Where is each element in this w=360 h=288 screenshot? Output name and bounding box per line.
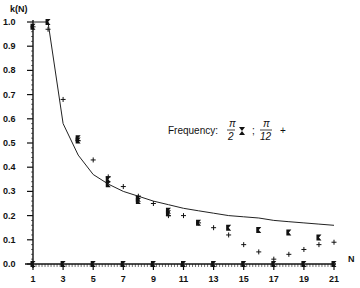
x-tick-label: 3 xyxy=(61,274,66,284)
x-tick-label: 7 xyxy=(121,274,126,284)
legend-separator: ; xyxy=(252,125,255,136)
y-tick-label: 0.7 xyxy=(3,90,16,100)
hourglass-marker-icon xyxy=(239,127,245,135)
y-axis: 0.00.10.20.30.40.50.60.70.80.91.0 xyxy=(3,17,33,269)
legend-2-num: π xyxy=(263,118,270,129)
legend: Frequency: π 2 ; π 12 + xyxy=(168,118,286,142)
data-points xyxy=(31,19,337,267)
x-tick-label: 19 xyxy=(299,274,309,284)
y-tick-label: 0.4 xyxy=(3,162,16,172)
x-tick-label: 13 xyxy=(209,274,219,284)
y-tick-label: 0.3 xyxy=(3,186,16,196)
y-tick-label: 0.0 xyxy=(3,259,16,269)
legend-1-den: 2 xyxy=(227,131,234,142)
legend-1-num: π xyxy=(229,118,236,129)
x-tick-label: 21 xyxy=(329,274,339,284)
chart: k(N) 0.00.10.20.30.40.50.60.70.80.91.0 1… xyxy=(0,0,360,288)
x-tick-label: 17 xyxy=(269,274,279,284)
y-tick-label: 0.8 xyxy=(3,65,16,75)
legend-2-den: 12 xyxy=(260,131,272,142)
x-tick-label: 1 xyxy=(30,274,35,284)
x-axis-title: N xyxy=(348,254,355,264)
y-axis-title: k(N) xyxy=(10,4,28,14)
y-tick-label: 0.6 xyxy=(3,114,16,124)
y-tick-label: 0.1 xyxy=(3,235,16,245)
y-tick-label: 0.9 xyxy=(3,41,16,51)
fit-curve xyxy=(33,22,334,225)
legend-prefix: Frequency: xyxy=(168,125,218,136)
x-tick-label: 9 xyxy=(151,274,156,284)
x-tick-label: 5 xyxy=(91,274,96,284)
x-tick-label: 11 xyxy=(179,274,189,284)
y-tick-label: 0.2 xyxy=(3,211,16,221)
y-tick-label: 1.0 xyxy=(3,17,16,27)
plus-marker-icon: + xyxy=(280,125,286,136)
x-tick-label: 15 xyxy=(239,274,249,284)
y-tick-label: 0.5 xyxy=(3,138,16,148)
